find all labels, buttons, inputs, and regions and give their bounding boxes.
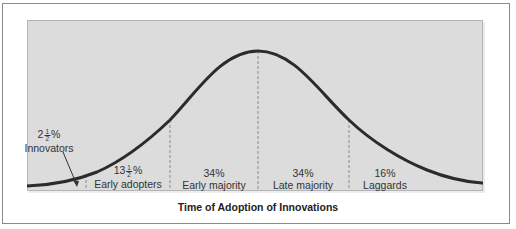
- early-adopters-name: Early adopters: [94, 178, 162, 190]
- arrowhead-icon: [73, 180, 79, 187]
- late-majority-percent: 34%: [273, 167, 333, 179]
- label-laggards: 16% Laggards: [363, 167, 407, 191]
- fraction-half: 12: [126, 165, 132, 178]
- chart-title: Time of Adoption of Innovations: [0, 201, 516, 213]
- early-majority-percent: 34%: [182, 167, 246, 179]
- innovators-percent-whole: 2: [38, 128, 44, 140]
- label-innovators: 212% Innovators: [24, 128, 73, 154]
- label-early-adopters: 1312% Early adopters: [94, 164, 162, 190]
- late-majority-name: Late majority: [273, 179, 333, 191]
- early-adopters-percent: 1312%: [94, 164, 162, 178]
- early-majority-name: Early majority: [182, 179, 246, 191]
- innovators-percent: 212%: [24, 128, 73, 142]
- fraction-den: 2: [44, 136, 50, 142]
- percent-sign: %: [133, 164, 142, 176]
- innovators-arrow: [63, 152, 76, 183]
- laggards-percent: 16%: [363, 167, 407, 179]
- percent-sign: %: [51, 128, 60, 140]
- label-early-majority: 34% Early majority: [182, 167, 246, 191]
- laggards-name: Laggards: [363, 179, 407, 191]
- fraction-den: 2: [126, 172, 132, 178]
- label-late-majority: 34% Late majority: [273, 167, 333, 191]
- early-adopters-percent-whole: 13: [114, 164, 126, 176]
- fraction-half: 12: [44, 129, 50, 142]
- innovators-name: Innovators: [24, 142, 73, 154]
